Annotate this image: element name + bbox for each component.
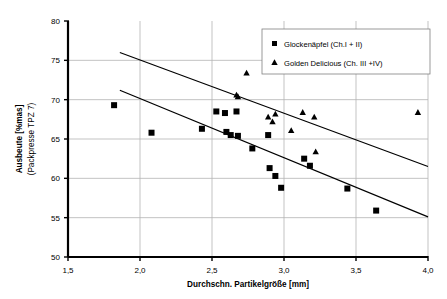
x-tick-label: 4,0: [422, 266, 434, 275]
data-point-triangle: [288, 127, 294, 133]
y-tick-label: 75: [51, 56, 60, 65]
x-tick-label: 1,5: [62, 266, 74, 275]
data-point-triangle: [415, 109, 421, 115]
data-point-square: [265, 132, 271, 138]
legend: Glockenäpfel (Ch.I + II)Golden Delicious…: [262, 29, 430, 74]
legend-entry-label: Golden Delicious (Ch. III +IV): [284, 59, 383, 68]
data-point-triangle: [300, 109, 306, 115]
data-point-square: [233, 108, 239, 114]
y-tick-label: 60: [51, 174, 60, 183]
chart-figure: 1,52,02,53,03,54,0 50556065707580 Glocke…: [0, 0, 447, 299]
x-tick-labels: 1,52,02,53,03,54,0: [62, 266, 434, 275]
data-point-square: [301, 156, 307, 162]
data-point-square: [235, 133, 241, 139]
data-point-square: [199, 126, 205, 132]
data-point-square: [149, 130, 155, 136]
y-tick-label: 65: [51, 135, 60, 144]
data-point-square: [267, 165, 273, 171]
data-point-square: [222, 110, 228, 116]
y-tick-labels: 50556065707580: [51, 17, 60, 262]
data-point-square: [249, 145, 255, 151]
data-point-square: [272, 173, 278, 179]
legend-entry-label: Glockenäpfel (Ch.I + II): [284, 40, 363, 49]
x-tick-label: 2,0: [134, 266, 146, 275]
scatter-plot: 1,52,02,53,03,54,0 50556065707580 Glocke…: [0, 0, 447, 299]
data-points: [111, 70, 421, 214]
x-axis-title: Durchschn. Partikelgröße [mm]: [187, 280, 309, 289]
y-axis-subtitle: (Packpresse TPZ 7): [27, 102, 36, 175]
data-point-square: [213, 108, 219, 114]
data-point-square: [111, 102, 117, 108]
y-tick-label: 70: [51, 96, 60, 105]
data-point-triangle: [243, 70, 249, 76]
x-tick-label: 3,5: [350, 266, 362, 275]
y-axis-title: Ausbeute [%mas]: [15, 104, 24, 173]
y-tick-label: 50: [51, 253, 60, 262]
x-tick-label: 3,0: [278, 266, 290, 275]
data-point-triangle: [311, 114, 317, 120]
y-tick-label: 55: [51, 214, 60, 223]
data-point-square: [373, 208, 379, 214]
data-point-square: [307, 163, 313, 169]
trend-lines: [120, 52, 428, 216]
data-point-square: [344, 186, 350, 192]
x-tick-label: 2,5: [206, 266, 218, 275]
legend-marker-square: [272, 41, 277, 46]
data-point-triangle: [265, 114, 271, 120]
data-point-square: [278, 185, 284, 191]
data-point-square: [228, 132, 234, 138]
data-point-triangle: [312, 148, 318, 154]
y-tick-label: 80: [51, 17, 60, 26]
